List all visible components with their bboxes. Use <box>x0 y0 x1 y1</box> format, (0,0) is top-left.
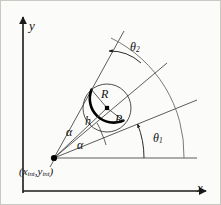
theta1-arc <box>138 124 145 158</box>
ray-group <box>54 31 197 158</box>
vertex-x-subscript: int <box>28 170 35 177</box>
alpha-lower-label: α <box>77 139 83 151</box>
alpha-upper-arc <box>97 123 102 134</box>
circle-center-dot <box>105 106 109 110</box>
x-axis-label: x <box>197 181 203 194</box>
radius-lower-label: R <box>115 113 122 125</box>
alpha-upper-label: α <box>66 126 72 138</box>
radius-upper-label: R <box>101 88 108 100</box>
y-axis-label: y <box>29 19 35 32</box>
vertex-y-subscript: int <box>42 170 49 177</box>
alpha-lower-arc <box>102 134 106 145</box>
theta2-label: θ2 <box>130 41 140 54</box>
vertex-label: (xint,yint) <box>19 166 53 178</box>
theta2-subscript: 2 <box>136 45 140 54</box>
geometry-figure: y x θ2 θ1 α α R R h (xint,yint) <box>0 0 221 205</box>
height-label: h <box>85 115 91 127</box>
outer-arc <box>111 38 184 158</box>
theta1-subscript: 1 <box>159 136 163 145</box>
theta1-label: θ1 <box>153 132 163 145</box>
vertex-paren-close: ) <box>50 165 54 177</box>
